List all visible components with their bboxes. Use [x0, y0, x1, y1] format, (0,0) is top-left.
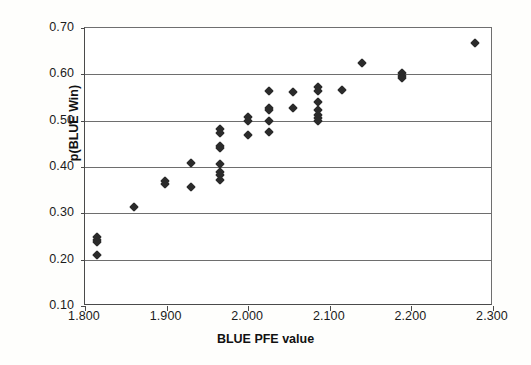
x-axis-tick-label: 2.200 — [395, 309, 427, 323]
y-axis-title: p(BLUE Win) — [67, 43, 81, 203]
scatter-chart: 0.100.200.300.400.500.600.70 p(BLUE Win)… — [0, 0, 531, 365]
x-axis-tick-label: 1.800 — [68, 309, 100, 323]
data-point — [470, 38, 480, 48]
y-axis-tick-label: 0.70 — [49, 20, 74, 34]
gridline — [85, 121, 491, 122]
x-axis-tick-label: 2.300 — [476, 309, 508, 323]
x-axis-tick-label: 1.900 — [150, 309, 182, 323]
y-axis-tick-label: 0.20 — [49, 252, 74, 266]
gridline — [85, 74, 491, 75]
data-point — [337, 85, 347, 95]
x-axis-tick-label: 2.000 — [231, 309, 263, 323]
gridline — [85, 260, 491, 261]
data-point — [357, 58, 367, 68]
plot-area — [84, 27, 492, 305]
gridline — [85, 167, 491, 168]
data-point — [129, 202, 139, 212]
data-point — [288, 87, 298, 97]
data-point — [186, 182, 196, 192]
data-point — [243, 131, 253, 141]
x-axis-title: BLUE PFE value — [0, 332, 531, 346]
data-point — [264, 116, 274, 126]
gridline — [85, 213, 491, 214]
data-point — [264, 86, 274, 96]
data-point — [288, 103, 298, 113]
x-axis-tick-label: 2.100 — [313, 309, 345, 323]
data-point — [264, 127, 274, 137]
y-axis-tick-label: 0.30 — [49, 205, 74, 219]
x-axis: 1.8001.9002.0002.1002.2002.300 — [0, 307, 531, 331]
data-point — [216, 175, 226, 185]
data-point — [92, 250, 102, 260]
